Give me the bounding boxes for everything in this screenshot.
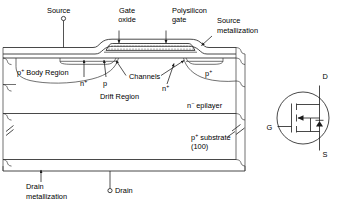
symbol-label-drain: D bbox=[323, 72, 328, 81]
label-polysilicon-line2: gate bbox=[172, 15, 186, 24]
break-mark-icon bbox=[236, 128, 245, 135]
arrow-icon bbox=[167, 64, 174, 85]
arrow-icon bbox=[116, 61, 126, 76]
terminal-circle-icon bbox=[108, 189, 112, 193]
figure-canvas: Source Gate oxide Polysilicon gate Sourc… bbox=[0, 0, 351, 206]
diode-arrow-icon bbox=[316, 121, 323, 127]
channel-left-callout bbox=[116, 61, 126, 76]
label-source: Source bbox=[47, 6, 70, 15]
label-drain-metal-line2: metallization bbox=[26, 192, 67, 201]
label-polysilicon-line1: Polysilicon bbox=[172, 6, 207, 15]
label-pbody-region: p+ Body Region bbox=[17, 67, 69, 77]
source-metallization-callout bbox=[202, 36, 213, 46]
label-pplus-right: p+ bbox=[205, 68, 212, 78]
label-p-center: p bbox=[103, 79, 107, 88]
label-drain: Drain bbox=[115, 186, 133, 195]
symbol-label-gate: G bbox=[267, 123, 273, 132]
label-substrate: p+ substrate bbox=[191, 132, 231, 142]
metal-right-brace bbox=[236, 48, 245, 55]
silicon-surface-right-brace bbox=[236, 58, 245, 65]
substrate-left-brace bbox=[3, 160, 12, 167]
mosfet-symbol: D G S bbox=[267, 72, 330, 159]
label-gate-oxide-line1: Gate bbox=[119, 6, 135, 15]
source-terminal-group bbox=[61, 16, 65, 47]
pbody-right-brace bbox=[236, 81, 245, 87]
label-source-metal-line2: metallization bbox=[217, 26, 258, 35]
epilayer-left-brace bbox=[3, 114, 12, 121]
label-nplus-right: n+ bbox=[162, 83, 169, 93]
symbol-label-source: S bbox=[323, 150, 328, 159]
body-left-brace bbox=[3, 85, 12, 92]
substrate-right-brace bbox=[236, 160, 245, 167]
epilayer-boundary bbox=[3, 114, 245, 121]
channel-arrow-icon bbox=[298, 115, 304, 121]
label-nplus-left: n+ bbox=[80, 78, 87, 88]
label-substrate-orientation: (100) bbox=[191, 142, 208, 151]
break-mark-right bbox=[232, 125, 245, 135]
terminal-circle-icon bbox=[61, 16, 65, 20]
mosfet-cross-section-drawing: Source Gate oxide Polysilicon gate Sourc… bbox=[0, 0, 351, 206]
silicon-left-brace bbox=[3, 58, 12, 65]
substrate-boundary bbox=[3, 160, 245, 167]
polysilicon-gate-fill bbox=[106, 44, 195, 51]
arrow-icon bbox=[202, 36, 213, 46]
epilayer-right-brace bbox=[236, 114, 245, 121]
break-mark-left bbox=[6, 126, 14, 136]
label-gate-oxide-line2: oxide bbox=[118, 15, 136, 24]
drain-terminal-group bbox=[108, 171, 112, 193]
polysilicon-gate-block bbox=[106, 44, 195, 51]
label-drain-metal-line1: Drain bbox=[26, 182, 44, 191]
label-channels: Channels bbox=[129, 72, 161, 81]
label-drift-region: Drift Region bbox=[100, 92, 139, 101]
label-source-metal-line1: Source bbox=[217, 16, 240, 25]
nplus-right-callout bbox=[167, 64, 174, 85]
label-epilayer: n− epilayer bbox=[187, 100, 223, 110]
